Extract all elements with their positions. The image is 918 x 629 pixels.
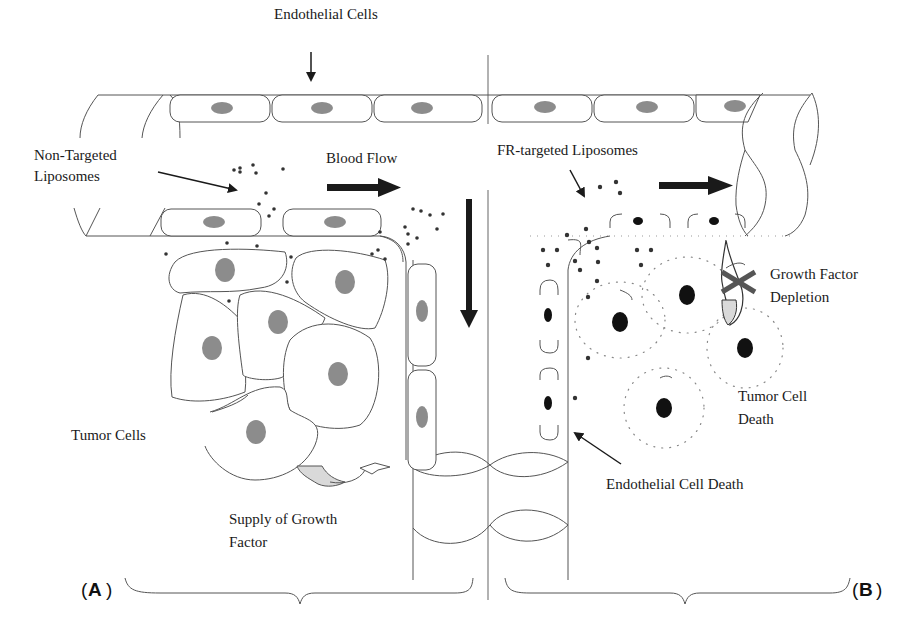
label-endothelial-cells: Endothelial Cells: [274, 6, 378, 22]
label-tumor-cell-death-line2: Death: [738, 411, 774, 427]
label-endothelial-cell-death: Endothelial Cell Death: [606, 476, 744, 492]
panel-label-a: ( A ): [81, 579, 112, 600]
endothelial-cells-top-right: [492, 95, 760, 122]
pointer-arrow-fr-targeted: [570, 170, 584, 196]
dying-tumor-cell: [575, 282, 665, 358]
endothelial-cell: [283, 209, 381, 236]
label-supply-line2: Factor: [229, 534, 267, 550]
svg-text:): ): [106, 579, 112, 600]
blood-flow-arrow-horizontal-left: [327, 178, 401, 197]
endothelial-cell: [170, 95, 270, 122]
label-fr-targeted: FR-targeted Liposomes: [497, 142, 638, 158]
dying-endothelial-cells-top: [610, 214, 745, 228]
label-blood-flow: Blood Flow: [326, 150, 397, 166]
growth-factor-depletion-icon: [721, 240, 755, 325]
endothelial-cell: [492, 95, 592, 122]
dying-tumor-cell: [624, 368, 704, 448]
endothelial-cell: [374, 95, 482, 122]
label-tumor-cells: Tumor Cells: [71, 427, 146, 443]
panel-label-b: ( B ): [852, 579, 882, 600]
dying-endothelial-cells-vertical: [540, 280, 558, 440]
panel-letter-a: A: [88, 579, 102, 600]
brace-panel-b: [505, 578, 850, 604]
label-tumor-cell-death-line1: Tumor Cell: [738, 388, 807, 404]
endothelial-cell: [408, 264, 436, 366]
tumor-cell: [283, 324, 378, 428]
blood-flow-arrow-vertical: [460, 199, 478, 328]
endothelial-cell: [272, 95, 372, 122]
endothelial-cell: [408, 370, 436, 470]
label-supply-line1: Supply of Growth: [229, 511, 338, 527]
label-growth-factor-line1: Growth Factor: [770, 266, 858, 282]
pointer-arrow-non-targeted: [158, 172, 236, 190]
endothelial-cell: [161, 209, 261, 236]
growth-factor-supply-arrow: [297, 463, 390, 486]
endothelial-cells-top-left: [170, 95, 482, 122]
svg-text:(: (: [852, 579, 859, 600]
blood-flow-arrow-horizontal-right: [659, 176, 733, 195]
tumor-cell: [171, 293, 246, 401]
endothelial-cells-bottom-left: [161, 209, 381, 236]
label-non-targeted-line2: Liposomes: [34, 168, 100, 184]
pointer-arrow-cell-death: [575, 433, 621, 464]
diagram-canvas: Endothelial Cells Non-Targeted Liposomes…: [0, 0, 918, 629]
endothelial-cell: [696, 95, 760, 122]
label-growth-factor-line2: Depletion: [770, 289, 830, 305]
svg-text:(: (: [81, 579, 88, 600]
dying-tumor-cell: [707, 308, 783, 388]
dying-tumor-cell: [642, 257, 732, 333]
svg-text:): ): [876, 579, 882, 600]
brace-panel-a: [125, 578, 473, 604]
tumor-cells-healthy: [169, 249, 388, 480]
label-non-targeted-line1: Non-Targeted: [34, 147, 117, 163]
diagram-svg: Endothelial Cells Non-Targeted Liposomes…: [0, 0, 918, 629]
panel-letter-b: B: [859, 579, 873, 600]
endothelial-cells-vertical-left: [408, 264, 436, 470]
endothelial-cell: [594, 95, 694, 122]
tumor-cell: [169, 249, 287, 293]
